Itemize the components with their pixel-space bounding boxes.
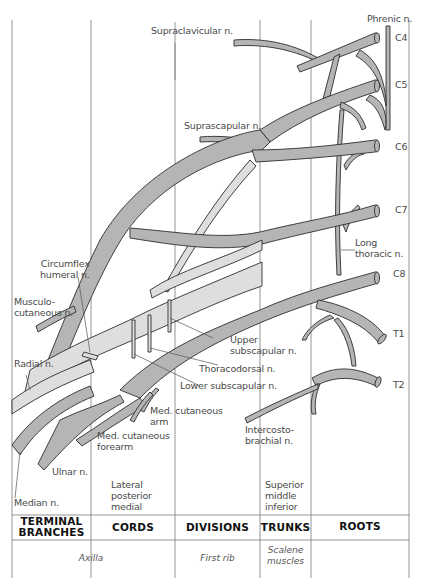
med-cutaneous-arm-label: Med. cutaneous arm	[150, 405, 223, 427]
intercostobrachial-label: Intercosto- brachial n.	[245, 424, 294, 446]
supraclavicular-nerve	[234, 40, 318, 62]
footer-scalene-muscles: Scalene muscles	[260, 545, 311, 567]
root-c8-label: C8	[393, 268, 405, 279]
c6-root	[252, 140, 379, 162]
header-divisions: DIVISIONS	[175, 522, 260, 533]
upper-subscapular-label: Upper subscapular n.	[230, 334, 297, 356]
c5-phrenic-branch	[366, 95, 386, 130]
thoracodorsal-label: Thoracodorsal n.	[199, 363, 275, 374]
phrenic-nerve-label: Phrenic n.	[367, 13, 412, 24]
root-c5-label: C5	[395, 79, 407, 90]
upper-subscapular-branch	[168, 300, 171, 332]
thoracodorsal-branch	[148, 315, 151, 352]
circumflex-humeral-label: Circumflex humeral n.	[40, 258, 90, 280]
root-t2-label: T2	[393, 379, 404, 390]
median-label: Median n.	[14, 497, 59, 508]
cords-list-label: Lateral posterior medial	[111, 479, 152, 512]
brachial-plexus-diagram	[0, 0, 422, 587]
t2-root	[312, 369, 378, 386]
med-cutaneous-forearm-label: Med. cutaneous forearm	[97, 430, 170, 452]
lower-subscapular-branch	[132, 320, 135, 358]
musculocutaneous-label: Musculo- cutaneous n.	[14, 296, 73, 318]
phrenic-nerve	[386, 26, 390, 130]
root-c7-label: C7	[395, 204, 407, 215]
lower-subscapular-label: Lower subscapular n.	[180, 380, 277, 391]
ulnar-label: Ulnar n.	[52, 466, 88, 477]
header-cords: CORDS	[91, 522, 175, 533]
header-terminal-branches: TERMINAL BRANCHES	[12, 516, 91, 538]
root-c4-label: C4	[395, 32, 407, 43]
footer-axilla: Axilla	[60, 553, 122, 564]
header-roots: ROOTS	[311, 521, 409, 532]
suprascapular-label: Suprascapular n.	[184, 120, 261, 131]
root-c6-label: C6	[395, 141, 407, 152]
c4-root	[297, 33, 379, 72]
root-t1-label: T1	[393, 328, 404, 339]
trunks-list-label: Superior middle inferior	[265, 479, 304, 512]
c5-root	[260, 80, 379, 142]
footer-first-rib: First rib	[175, 553, 260, 564]
header-trunks: TRUNKS	[260, 522, 311, 533]
radial-label: Radial n.	[14, 358, 54, 369]
c7-root	[130, 205, 379, 248]
long-thoracic-label: Long thoracic n.	[355, 237, 403, 259]
supraclavicular-label: Supraclavicular n.	[151, 25, 233, 36]
